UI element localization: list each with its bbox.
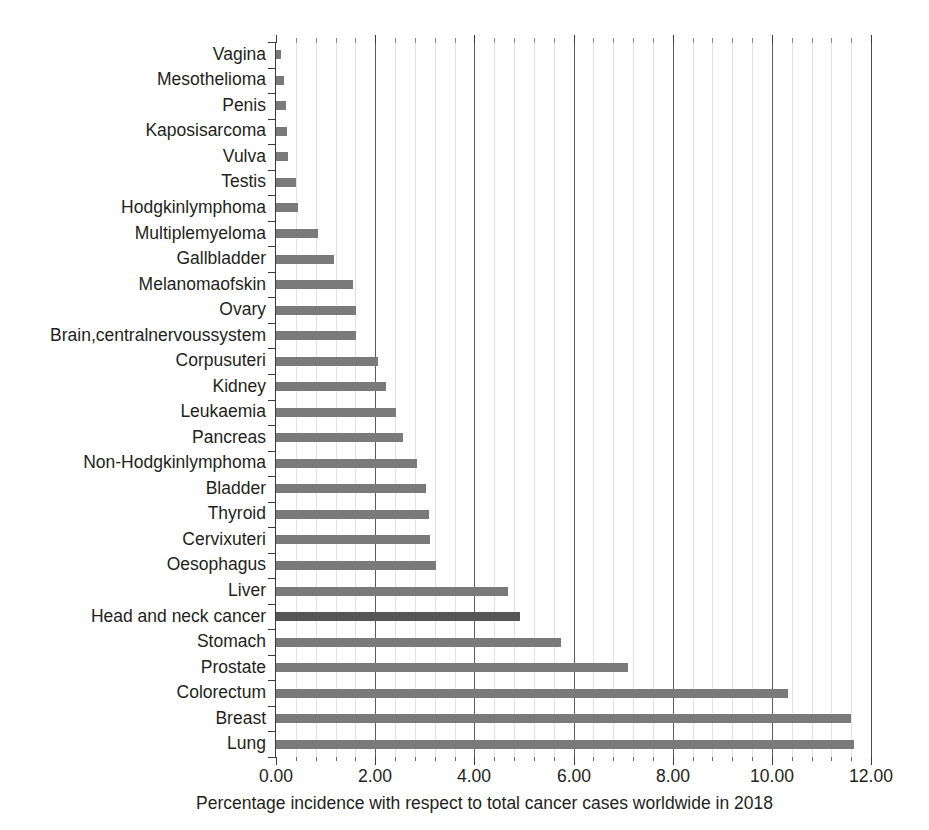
bar — [276, 357, 378, 366]
bar-chart: VaginaMesotheliomaPenisKaposisarcomaVulv… — [0, 0, 929, 830]
y-tick — [268, 323, 276, 324]
gridline-minor — [653, 42, 654, 757]
category-label: Non-Hodgkinlymphoma — [0, 453, 266, 471]
category-label: Stomach — [0, 632, 266, 650]
y-tick — [268, 680, 276, 681]
category-label: Lung — [0, 734, 266, 752]
x-tick-minor-top — [415, 38, 416, 43]
x-tick-minor-top — [316, 38, 317, 43]
x-tick-minor-top — [633, 38, 634, 43]
category-label: Kidney — [0, 377, 266, 395]
y-tick — [268, 297, 276, 298]
bar — [276, 255, 334, 264]
y-tick — [268, 42, 276, 43]
category-label: Leukaemia — [0, 402, 266, 420]
y-tick — [268, 706, 276, 707]
gridline-minor — [336, 42, 337, 757]
gridline-minor — [395, 42, 396, 757]
x-tick-minor — [554, 757, 555, 761]
gridline-major — [375, 42, 376, 757]
y-tick — [268, 93, 276, 94]
x-tick-minor-top — [534, 38, 535, 43]
category-label: Testis — [0, 172, 266, 190]
bar — [276, 101, 286, 110]
category-label: Penis — [0, 96, 266, 114]
y-tick — [268, 119, 276, 120]
category-label: Vulva — [0, 147, 266, 165]
category-label: Oesophagus — [0, 555, 266, 573]
x-tick-major — [871, 757, 872, 765]
x-tick-major — [375, 757, 376, 765]
y-tick — [268, 374, 276, 375]
bar — [276, 638, 561, 647]
category-label: Melanomaofskin — [0, 275, 266, 293]
x-tick-major-top — [474, 35, 475, 43]
bar — [276, 510, 429, 519]
y-tick — [268, 731, 276, 732]
bar — [276, 331, 356, 340]
y-tick — [268, 272, 276, 273]
x-tick-minor-top — [732, 38, 733, 43]
x-tick-minor — [613, 757, 614, 761]
category-label: Multiplemyeloma — [0, 224, 266, 242]
y-tick — [268, 348, 276, 349]
x-tick-label: 2.00 — [358, 766, 392, 786]
x-tick-minor-top — [851, 38, 852, 43]
x-tick-minor — [812, 757, 813, 761]
gridline-minor — [732, 42, 733, 757]
category-label: Vagina — [0, 45, 266, 63]
gridline-minor — [455, 42, 456, 757]
x-tick-minor — [712, 757, 713, 761]
y-tick — [268, 553, 276, 554]
bar — [276, 408, 396, 417]
y-tick — [268, 527, 276, 528]
gridline-minor — [851, 42, 852, 757]
x-tick-minor-top — [455, 38, 456, 43]
x-tick-minor — [593, 757, 594, 761]
category-label: Brain,centralnervoussystem — [0, 326, 266, 344]
x-tick-major — [673, 757, 674, 765]
y-tick — [268, 629, 276, 630]
bar — [276, 714, 851, 723]
bar — [276, 280, 353, 289]
gridline-major — [474, 42, 475, 757]
category-label: Pancreas — [0, 428, 266, 446]
gridline-major — [673, 42, 674, 757]
x-tick-minor — [455, 757, 456, 761]
x-tick-minor — [534, 757, 535, 761]
x-tick-minor — [752, 757, 753, 761]
y-tick — [268, 476, 276, 477]
bar — [276, 561, 436, 570]
x-tick-minor-top — [812, 38, 813, 43]
y-tick — [268, 451, 276, 452]
x-tick-minor-top — [613, 38, 614, 43]
x-tick-minor-top — [514, 38, 515, 43]
category-label: Bladder — [0, 479, 266, 497]
y-tick — [268, 170, 276, 171]
x-tick-minor-top — [494, 38, 495, 43]
gridline-major — [574, 42, 575, 757]
x-tick-minor-top — [653, 38, 654, 43]
gridline-minor — [831, 42, 832, 757]
x-tick-label: 10.00 — [750, 766, 794, 786]
y-tick — [268, 246, 276, 247]
x-tick-minor-top — [593, 38, 594, 43]
y-tick — [268, 221, 276, 222]
x-tick-minor — [653, 757, 654, 761]
bar — [276, 229, 318, 238]
category-label: Mesothelioma — [0, 70, 266, 88]
bar — [276, 152, 288, 161]
bar — [276, 178, 296, 187]
x-tick-minor — [316, 757, 317, 761]
x-tick-minor — [693, 757, 694, 761]
bar — [276, 382, 386, 391]
category-label: Prostate — [0, 658, 266, 676]
x-tick-minor — [732, 757, 733, 761]
gridline-minor — [494, 42, 495, 757]
x-tick-major-top — [871, 35, 872, 43]
y-tick — [268, 502, 276, 503]
bar — [276, 484, 426, 493]
y-tick — [268, 195, 276, 196]
x-tick-minor-top — [712, 38, 713, 43]
gridline-minor — [712, 42, 713, 757]
